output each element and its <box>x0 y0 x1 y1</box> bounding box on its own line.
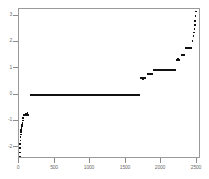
data-point <box>193 32 195 34</box>
x-axis-tick <box>125 158 126 163</box>
data-point <box>193 35 195 37</box>
y-axis-tick <box>13 41 18 42</box>
data-point <box>192 40 194 42</box>
data-point <box>20 131 22 133</box>
data-point <box>20 140 22 142</box>
data-run-segment <box>30 94 140 96</box>
data-point <box>21 125 23 127</box>
data-point <box>20 129 22 131</box>
y-axis-tick <box>13 94 18 95</box>
data-point <box>19 156 21 158</box>
data-point <box>194 24 196 26</box>
x-axis-tick-label: 1000 <box>77 165 101 170</box>
data-point <box>182 54 184 56</box>
x-axis-tick <box>18 158 19 163</box>
y-axis-tick <box>13 120 18 121</box>
y-axis-tick-label: 3 <box>0 12 12 17</box>
plot-panel <box>18 8 200 158</box>
x-axis-tick <box>89 158 90 163</box>
y-axis-tick-label: -2 <box>0 144 12 149</box>
data-point <box>21 124 23 126</box>
data-point <box>148 74 150 76</box>
x-axis-tick <box>160 158 161 163</box>
data-point <box>22 117 24 119</box>
data-point <box>19 143 21 145</box>
x-axis-tick-label: 1500 <box>113 165 137 170</box>
x-axis-tick-label: 500 <box>42 165 66 170</box>
data-run-segment <box>185 47 192 49</box>
data-point <box>22 120 24 122</box>
data-point <box>21 127 23 129</box>
chart-figure: -2-1012305001000150020002500 <box>0 0 209 179</box>
x-axis-tick-label: 2500 <box>184 165 208 170</box>
y-axis-tick-label: 2 <box>0 38 12 43</box>
data-point <box>194 28 196 30</box>
y-axis-tick-label: -1 <box>0 117 12 122</box>
data-point <box>22 122 24 124</box>
x-axis-tick <box>54 158 55 163</box>
x-axis-tick-label: 2000 <box>148 165 172 170</box>
data-point <box>27 112 29 114</box>
x-axis-tick <box>196 158 197 163</box>
y-axis-tick <box>13 15 18 16</box>
y-axis-tick <box>13 67 18 68</box>
data-run-segment <box>153 69 177 71</box>
y-axis-tick-label: 0 <box>0 91 12 96</box>
data-point <box>19 152 21 154</box>
y-axis-tick <box>13 146 18 147</box>
data-point <box>19 147 21 149</box>
data-point <box>194 20 196 22</box>
data-point <box>20 134 22 136</box>
y-axis-tick-label: 1 <box>0 65 12 70</box>
data-point <box>195 11 197 13</box>
data-point <box>20 136 22 138</box>
data-point <box>142 78 144 80</box>
data-point <box>195 15 197 17</box>
x-axis-tick-label: 0 <box>6 165 30 170</box>
data-point <box>177 58 179 60</box>
